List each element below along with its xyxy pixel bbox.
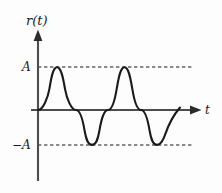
positive-amplitude-label: A bbox=[22, 61, 31, 73]
negative-amplitude-letter: A bbox=[22, 138, 31, 152]
y-axis-arrowhead bbox=[34, 30, 43, 42]
x-axis-label: t bbox=[205, 104, 210, 116]
y-axis-label: r(t) bbox=[26, 14, 48, 27]
sine-wave-curve bbox=[38, 67, 180, 145]
negative-amplitude-label: −A bbox=[12, 139, 31, 151]
minus-sign: − bbox=[12, 138, 22, 152]
plot-area bbox=[0, 0, 222, 193]
sine-wave-figure: r(t) t A −A bbox=[0, 0, 222, 193]
x-axis-arrowhead bbox=[190, 106, 202, 115]
